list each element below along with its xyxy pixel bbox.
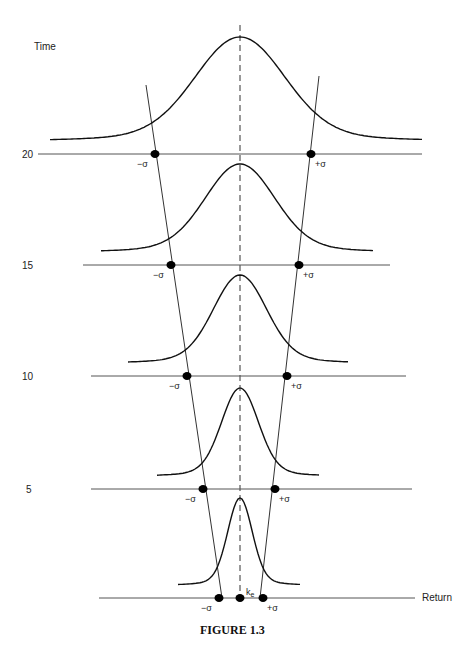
plus-sigma-label: +σ [267, 603, 278, 613]
minus-sigma-label: −σ [201, 603, 212, 613]
distribution-curve [101, 164, 373, 251]
distribution-curve [157, 388, 319, 475]
plus-sigma-label: +σ [279, 494, 290, 504]
plus-sigma-label: +σ [291, 381, 302, 391]
minus-sigma-label: −σ [185, 494, 196, 504]
mean-label: ke [246, 587, 255, 598]
distribution-curve [178, 498, 300, 585]
time-tick-label: 15 [22, 260, 34, 271]
minus-sigma-dot [183, 372, 192, 380]
plus-sigma-dot [283, 372, 292, 380]
x-axis-label: Return [422, 592, 452, 603]
plus-sigma-dot [271, 485, 280, 493]
plus-sigma-dot [307, 150, 316, 158]
distribution-curve [128, 275, 348, 362]
minus-sigma-dot [215, 594, 224, 602]
minus-sigma-dot [199, 485, 208, 493]
figure-caption: FIGURE 1.3 [200, 623, 265, 637]
minus-sigma-label: −σ [137, 159, 148, 169]
time-tick-label: 10 [22, 371, 34, 382]
plus-sigma-label: +σ [315, 159, 326, 169]
time-tick-label: 5 [26, 484, 32, 495]
minus-sigma-dot [151, 150, 160, 158]
figure-diagram: −σ+σ20−σ+σ15−σ+σ10−σ+σ5−σ+σ Time Return … [0, 0, 471, 653]
minus-sigma-label: −σ [153, 270, 164, 280]
mean-dot [236, 594, 245, 602]
minus-sigma-line [146, 85, 222, 598]
minus-sigma-dot [167, 261, 176, 269]
plus-sigma-dot [295, 261, 304, 269]
minus-sigma-label: −σ [169, 381, 180, 391]
distribution-curve [50, 37, 422, 140]
y-axis-label: Time [34, 41, 56, 52]
plus-sigma-label: +σ [303, 270, 314, 280]
time-tick-label: 20 [22, 149, 34, 160]
plus-sigma-dot [259, 594, 268, 602]
